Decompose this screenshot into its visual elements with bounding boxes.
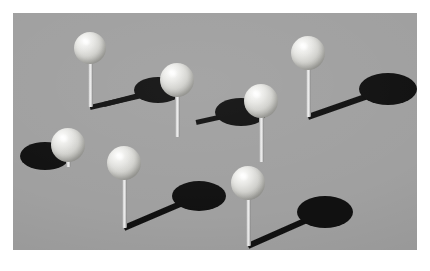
pin-object-pin-7 — [13, 13, 417, 250]
ball-sphere — [231, 166, 265, 200]
scene-root: Seven light spheres mounted on thin vert… — [0, 0, 430, 271]
pin-stem — [246, 195, 251, 246]
ground-plane — [13, 13, 417, 250]
